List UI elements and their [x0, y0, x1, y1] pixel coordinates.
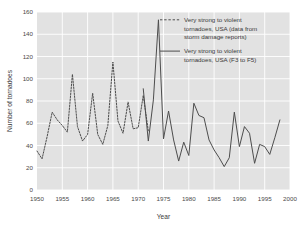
legend-label-0: storm damage reports)	[184, 33, 247, 40]
y-tick-label: 40	[26, 142, 33, 149]
x-tick-label: 1980	[182, 195, 196, 202]
y-tick-label: 0	[30, 186, 34, 193]
y-tick-label: 120	[23, 53, 34, 60]
legend-label-0: tornadoes, USA (data from	[184, 25, 257, 32]
x-tick-label: 1990	[233, 195, 247, 202]
y-tick-label: 140	[23, 30, 34, 37]
y-tick-label: 60	[26, 119, 33, 126]
tornado-line-chart: 020406080100120140160 195019551960196519…	[0, 0, 301, 233]
x-tick-label: 1970	[131, 195, 145, 202]
x-axis-title: Year	[157, 213, 171, 220]
legend-label-0: Very strong to violent	[184, 16, 242, 23]
x-tick-label: 1955	[55, 195, 69, 202]
y-tick-label: 160	[23, 8, 34, 15]
y-tick-label: 100	[23, 75, 34, 82]
y-tick-label: 20	[26, 164, 33, 171]
legend-label-1: tornadoes, USA (F3 to F5)	[184, 56, 256, 63]
x-tick-label: 1950	[30, 195, 44, 202]
x-tick-label: 1985	[207, 195, 221, 202]
chart-canvas: 020406080100120140160 195019551960196519…	[0, 0, 301, 233]
x-tick-label: 2000	[283, 195, 297, 202]
x-tick-label: 1960	[81, 195, 95, 202]
y-axis-title: Number of tornadoes	[6, 69, 13, 132]
x-tick-label: 1965	[106, 195, 120, 202]
x-tick-label: 1995	[258, 195, 272, 202]
x-tick-label: 1975	[157, 195, 171, 202]
y-tick-label: 80	[26, 97, 33, 104]
legend-label-1: Very strong to violent	[184, 47, 242, 54]
